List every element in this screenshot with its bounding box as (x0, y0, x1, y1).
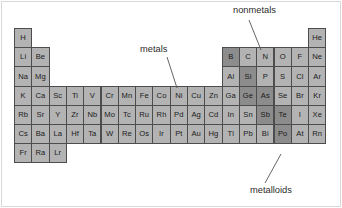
element-cell-br[interactable]: Br (291, 86, 309, 106)
element-cell-nb[interactable]: Nb (83, 105, 101, 125)
element-cell-ar[interactable]: Ar (308, 66, 326, 86)
element-cell-ag[interactable]: Ag (187, 105, 205, 125)
element-cell-mn[interactable]: Mn (118, 86, 136, 106)
element-cell-hg[interactable]: Hg (204, 124, 222, 144)
element-cell-zn[interactable]: Zn (204, 86, 222, 106)
element-cell-po[interactable]: Po (274, 124, 292, 144)
element-cell-au[interactable]: Au (187, 124, 205, 144)
element-cell-ca[interactable]: Ca (31, 86, 49, 106)
element-cell-sn[interactable]: Sn (239, 105, 257, 125)
element-cell-n[interactable]: N (256, 47, 274, 67)
element-cell-rb[interactable]: Rb (14, 105, 32, 125)
label-metalloids: metalloids (250, 186, 292, 195)
element-cell-si[interactable]: Si (239, 66, 257, 86)
element-cell-pd[interactable]: Pd (170, 105, 188, 125)
element-cell-ni[interactable]: Ni (170, 86, 188, 106)
element-cell-al[interactable]: Al (222, 66, 240, 86)
element-cell-ga[interactable]: Ga (222, 86, 240, 106)
element-cell-c[interactable]: C (239, 47, 257, 67)
element-cell-ir[interactable]: Ir (152, 124, 170, 144)
element-cell-cs[interactable]: Cs (14, 124, 32, 144)
element-cell-ra[interactable]: Ra (31, 143, 49, 163)
element-cell-li[interactable]: Li (14, 47, 32, 67)
element-cell-pt[interactable]: Pt (170, 124, 188, 144)
element-cell-ru[interactable]: Ru (135, 105, 153, 125)
element-cell-at[interactable]: At (291, 124, 309, 144)
element-cell-la[interactable]: La (49, 124, 67, 144)
element-cell-o[interactable]: O (274, 47, 292, 67)
element-cell-fe[interactable]: Fe (135, 86, 153, 106)
element-cell-lr[interactable]: Lr (49, 143, 67, 163)
element-cell-ta[interactable]: Ta (83, 124, 101, 144)
element-cell-p[interactable]: P (256, 66, 274, 86)
element-cell-in[interactable]: In (222, 105, 240, 125)
element-cell-v[interactable]: V (83, 86, 101, 106)
element-cell-fr[interactable]: Fr (14, 143, 32, 163)
element-cell-he[interactable]: He (308, 28, 326, 48)
element-cell-te[interactable]: Te (274, 105, 292, 125)
element-cell-f[interactable]: F (291, 47, 309, 67)
element-cell-se[interactable]: Se (274, 86, 292, 106)
element-cell-tc[interactable]: Tc (118, 105, 136, 125)
element-cell-as[interactable]: As (256, 86, 274, 106)
element-cell-sc[interactable]: Sc (49, 86, 67, 106)
element-cell-sb[interactable]: Sb (256, 105, 274, 125)
element-cell-ne[interactable]: Ne (308, 47, 326, 67)
periodic-table-grid: HHeLiBeBCNOFNeNaMgAlSiPSClArKCaScTiVCrMn… (0, 0, 342, 208)
element-cell-ge[interactable]: Ge (239, 86, 257, 106)
element-cell-ba[interactable]: Ba (31, 124, 49, 144)
periodic-table-figure: HHeLiBeBCNOFNeNaMgAlSiPSClArKCaScTiVCrMn… (0, 0, 342, 208)
element-cell-xe[interactable]: Xe (308, 105, 326, 125)
label-nonmetals: nonmetals (233, 6, 276, 15)
element-cell-zr[interactable]: Zr (66, 105, 84, 125)
element-cell-cu[interactable]: Cu (187, 86, 205, 106)
element-cell-w[interactable]: W (101, 124, 119, 144)
element-cell-be[interactable]: Be (31, 47, 49, 67)
element-cell-pb[interactable]: Pb (239, 124, 257, 144)
element-cell-cd[interactable]: Cd (204, 105, 222, 125)
element-cell-cl[interactable]: Cl (291, 66, 309, 86)
element-cell-bi[interactable]: Bi (256, 124, 274, 144)
element-cell-hf[interactable]: Hf (66, 124, 84, 144)
element-cell-y[interactable]: Y (49, 105, 67, 125)
element-cell-ti[interactable]: Ti (66, 86, 84, 106)
element-cell-k[interactable]: K (14, 86, 32, 106)
element-cell-os[interactable]: Os (135, 124, 153, 144)
element-cell-rn[interactable]: Rn (308, 124, 326, 144)
label-metals: metals (140, 45, 167, 54)
element-cell-re[interactable]: Re (118, 124, 136, 144)
element-cell-i[interactable]: I (291, 105, 309, 125)
element-cell-rh[interactable]: Rh (152, 105, 170, 125)
element-cell-b[interactable]: B (222, 47, 240, 67)
element-cell-mo[interactable]: Mo (101, 105, 119, 125)
element-cell-cr[interactable]: Cr (101, 86, 119, 106)
element-cell-kr[interactable]: Kr (308, 86, 326, 106)
element-cell-co[interactable]: Co (152, 86, 170, 106)
element-cell-h[interactable]: H (14, 28, 32, 48)
element-cell-tl[interactable]: Tl (222, 124, 240, 144)
element-cell-mg[interactable]: Mg (31, 66, 49, 86)
element-cell-s[interactable]: S (274, 66, 292, 86)
element-cell-sr[interactable]: Sr (31, 105, 49, 125)
element-cell-na[interactable]: Na (14, 66, 32, 86)
